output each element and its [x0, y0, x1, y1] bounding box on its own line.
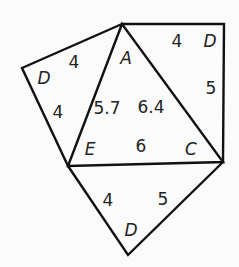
length-label-AE: 5.7	[93, 98, 120, 118]
length-label-CD-right: 5	[206, 78, 217, 98]
length-label-AC: 6.4	[137, 97, 164, 117]
vertex-label-D-right: D	[203, 31, 216, 51]
length-label-ED-left: 4	[53, 102, 64, 122]
triangle-EDC-bottom	[68, 162, 223, 255]
length-label-ED-bottom: 4	[103, 190, 114, 210]
vertex-label-E: E	[85, 139, 96, 159]
vertex-label-C: C	[185, 139, 197, 159]
vertex-label-A: A	[119, 48, 132, 68]
tetrahedron-net-diagram: A E C D D D 4 4 4 5 5.7 6.4 6 4 5	[0, 0, 239, 267]
length-label-EC: 6	[136, 136, 147, 156]
triangle-ADE-left	[22, 24, 122, 166]
length-label-CD-bottom: 5	[158, 189, 169, 209]
length-label-AD-left: 4	[69, 52, 80, 72]
length-label-AD-right: 4	[172, 31, 183, 51]
vertex-label-D-bottom: D	[124, 220, 137, 240]
vertex-label-D-left: D	[37, 68, 50, 88]
